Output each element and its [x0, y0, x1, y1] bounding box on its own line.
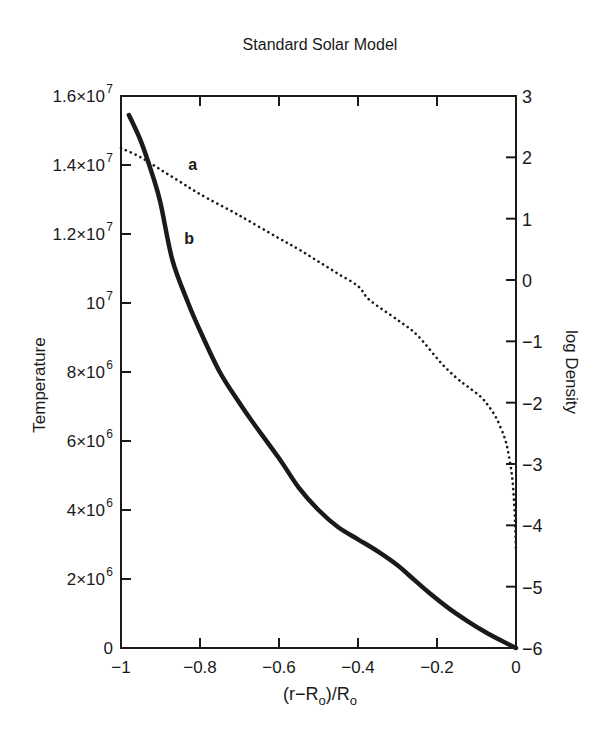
left-y-tick-exponent: 6: [106, 496, 113, 510]
series-b-line: [129, 115, 516, 648]
series-a-label: a: [188, 156, 197, 173]
series-a-line: [121, 148, 516, 550]
x-tick-label: −1: [111, 658, 130, 677]
right-y-tick-label: −5: [522, 578, 543, 598]
x-axis-ticks: −1−0.8−0.6−0.4−0.20: [111, 96, 520, 677]
series-layer: ab: [121, 115, 516, 648]
left-y-tick-label: 6×10: [67, 432, 105, 451]
right-y-tick-label: 0: [522, 271, 532, 291]
right-y-axis-label: log Density: [562, 330, 581, 415]
left-y-tick-label: 1.6×10: [53, 87, 105, 106]
left-y-tick-exponent: 6: [106, 565, 113, 579]
left-y-tick-exponent: 6: [106, 358, 113, 372]
left-y-tick-label: 0: [104, 639, 113, 658]
right-y-tick-label: 1: [522, 210, 532, 230]
right-y-tick-label: −4: [522, 516, 543, 536]
right-y-tick-label: −2: [522, 394, 543, 414]
right-y-tick-label: 3: [522, 87, 532, 107]
left-y-tick-label: 10: [86, 294, 105, 313]
x-tick-label: −0.2: [420, 658, 454, 677]
left-y-tick-label: 1.4×10: [53, 156, 105, 175]
right-y-tick-label: −3: [522, 455, 543, 475]
left-y-tick-exponent: 7: [106, 151, 113, 165]
right-y-tick-label: −1: [522, 332, 543, 352]
left-y-tick-exponent: 7: [106, 82, 113, 96]
right-y-tick-label: −6: [522, 639, 543, 659]
x-tick-label: −0.8: [183, 658, 217, 677]
left-y-tick-label: 8×10: [67, 363, 105, 382]
plot-frame: [121, 96, 516, 648]
series-b-label: b: [184, 230, 194, 247]
left-y-tick-exponent: 7: [106, 289, 113, 303]
left-y-tick-label: 4×10: [67, 501, 105, 520]
left-y-tick-label: 2×10: [67, 570, 105, 589]
x-tick-label: −0.4: [341, 658, 375, 677]
right-y-tick-label: 2: [522, 148, 532, 168]
left-y-tick-exponent: 6: [106, 427, 113, 441]
chart-title: Standard Solar Model: [243, 36, 398, 53]
right-y-axis-ticks: 3210−1−2−3−4−5−6: [506, 87, 543, 659]
left-y-axis-ticks: 02×1064×1066×1068×1061071.2×1071.4×1071.…: [53, 82, 131, 658]
x-axis-label: (r−Ro)/Ro: [283, 684, 357, 708]
left-y-tick-label: 1.2×10: [53, 225, 105, 244]
x-tick-label: −0.6: [262, 658, 296, 677]
left-y-tick-exponent: 7: [106, 220, 113, 234]
standard-solar-model-chart: Standard Solar Model −1−0.8−0.6−0.4−0.20…: [0, 0, 613, 751]
left-y-axis-label: Temperature: [30, 337, 49, 432]
x-tick-label: 0: [511, 658, 520, 677]
